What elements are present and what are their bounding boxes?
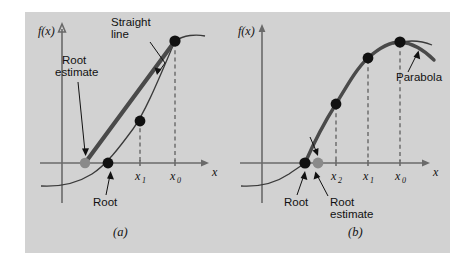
panel-a-tick-label-x1: x 1 (134, 169, 146, 185)
svg-text:estimate: estimate (330, 208, 373, 220)
svg-text:Straight: Straight (111, 16, 151, 28)
svg-text:1: 1 (370, 176, 374, 185)
svg-text:x: x (394, 169, 401, 183)
svg-text:Root: Root (330, 196, 355, 208)
panel-a-x-axis-label: x (211, 165, 218, 179)
svg-text:0: 0 (177, 176, 181, 185)
panel-b-x-axis (240, 160, 430, 167)
panel-b-annotation-root: Root (284, 171, 309, 208)
panel-b-point-root (299, 157, 310, 168)
svg-text:x: x (330, 169, 337, 183)
panel-b-y-axis (259, 24, 266, 203)
svg-text:line: line (111, 28, 129, 40)
svg-text:Parabola: Parabola (396, 71, 443, 83)
panel-b-tag: (b) (348, 225, 363, 239)
svg-text:Root: Root (284, 196, 309, 208)
panel-b-tick-label-x0: x 0 (394, 169, 406, 185)
panel-b-tick-label-x2: x 2 (330, 169, 342, 185)
panel-a-point-root-estimate (80, 158, 90, 168)
panel-a-tick-label-x0: x 0 (169, 169, 181, 185)
figure-svg: f(x) x x 1 x 0 Straight line Root (0, 0, 474, 266)
panel-a-y-axis (59, 24, 66, 203)
figure-root: f(x) x x 1 x 0 Straight line Root (0, 0, 474, 266)
panel-b-y-axis-label: f(x) (238, 24, 255, 38)
svg-text:Root: Root (93, 196, 118, 208)
panel-a-x-axis (40, 160, 209, 167)
panel-a-point-root (103, 158, 114, 169)
svg-text:x: x (362, 169, 369, 183)
panel-b-point-root-estimate (313, 158, 324, 169)
panel-a-point-x0 (169, 35, 180, 46)
panel-a-straight-line (85, 41, 175, 163)
panel-b-annotation-parabola: Parabola (396, 51, 443, 84)
svg-text:estimate: estimate (55, 66, 98, 78)
panel-b: f(x) x x 2 x 1 x 0 Parabola (238, 24, 443, 239)
panel-a-y-axis-label: f(x) (38, 24, 55, 38)
panel-b-point-x1 (363, 53, 374, 64)
panel-a: f(x) x x 1 x 0 Straight line Root (38, 16, 218, 239)
panel-b-point-x0 (394, 36, 405, 47)
panel-b-tick-label-x1: x 1 (362, 169, 374, 185)
svg-text:2: 2 (338, 176, 342, 185)
svg-text:Root: Root (62, 54, 87, 66)
panel-b-function-curve-left (241, 163, 305, 186)
panel-b-point-x2 (331, 99, 342, 110)
svg-text:0: 0 (402, 176, 406, 185)
panel-a-annotation-root: Root (93, 171, 118, 208)
svg-text:1: 1 (142, 176, 146, 185)
panel-b-x-axis-label: x (432, 165, 439, 179)
panel-a-point-x1 (135, 116, 146, 127)
panel-a-tag: (a) (113, 225, 128, 239)
svg-text:x: x (169, 169, 176, 183)
svg-text:x: x (134, 169, 141, 183)
